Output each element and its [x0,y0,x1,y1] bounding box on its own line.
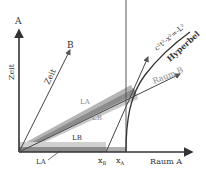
moving-bar-top-label: LA [80,98,91,106]
xb-marker: xB [98,156,107,166]
zeit-b-label: Zeit [43,67,58,86]
svg-text:LB: LB [92,114,102,122]
time-axis-b-label: B [67,40,74,50]
rest-bar-top-label: LB [72,134,82,142]
svg-text:LB: LB [72,134,82,142]
space-axis-b [19,74,180,152]
space-axis-b-label: Raum B [151,65,184,85]
xa-marker: xA [116,156,125,166]
space-axis-a-label: Raum A [150,157,182,166]
zeit-a-label: Zeit [7,63,16,80]
svg-text:LA: LA [80,98,91,106]
moving-bar-bottom-label: LB [92,114,102,122]
time-axis-a-label: A [14,16,22,26]
rest-bar-bottom-label: LA [36,151,60,166]
svg-text:xB: xB [98,156,107,166]
minkowski-diagram: A Zeit B Zeit c²t²-x²=-L² Hyperbel Raum … [0,0,206,174]
svg-text:LA: LA [36,158,47,166]
svg-text:xA: xA [116,156,125,166]
